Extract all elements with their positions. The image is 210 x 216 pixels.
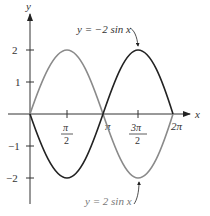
y-tick-label-1: 1 bbox=[15, 76, 21, 88]
y-tick-label-neg2: −2 bbox=[6, 172, 18, 184]
x-axis-label: x bbox=[194, 108, 200, 120]
chart: x y 2 1 −1 −2 π 2 π 3π 2 2π y = −2 sin x… bbox=[0, 0, 210, 216]
x-tick-label-3pi-half-num: 3π bbox=[130, 122, 142, 133]
annotation-neg-2-sin-x: y = −2 sin x bbox=[76, 23, 131, 35]
y-axis-label: y bbox=[25, 0, 31, 12]
y-tick-label-2: 2 bbox=[12, 44, 18, 56]
y-tick-label-neg1: −1 bbox=[8, 140, 20, 152]
annotation-arrow-top bbox=[130, 28, 138, 46]
annotation-arrow-bottom bbox=[134, 182, 139, 204]
x-tick-label-pi-half-num: π bbox=[63, 122, 69, 133]
x-tick-label-3pi-half-den: 2 bbox=[135, 135, 140, 146]
x-tick-label-2pi: 2π bbox=[171, 120, 183, 132]
x-tick-label-pi-half-den: 2 bbox=[64, 135, 69, 146]
annotation-2-sin-x: y = 2 sin x bbox=[84, 195, 132, 207]
